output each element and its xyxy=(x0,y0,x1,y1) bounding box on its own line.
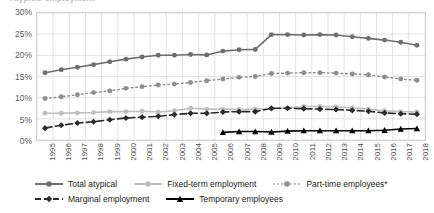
legend-entry[interactable]: Temporary employees xyxy=(165,194,283,204)
data-point xyxy=(188,52,193,57)
data-point xyxy=(269,32,274,37)
legend-marker-icon xyxy=(133,179,163,189)
x-tick-label: 2007 xyxy=(243,143,252,161)
y-tick-label: 20% xyxy=(0,50,32,60)
data-point xyxy=(123,57,128,62)
y-tick-label: 15% xyxy=(0,72,32,82)
x-tick-label: 2004 xyxy=(194,143,203,161)
data-point xyxy=(301,70,306,75)
data-point xyxy=(107,117,113,123)
y-tick-label: 5% xyxy=(0,115,32,125)
x-axis: 1995199619971998199920002001200220032004… xyxy=(36,143,426,175)
legend-entry[interactable]: Part-time employees* xyxy=(272,179,387,189)
data-point xyxy=(204,110,210,116)
data-point xyxy=(268,105,274,111)
x-tick-label: 2001 xyxy=(145,143,154,161)
data-point xyxy=(123,115,129,121)
data-point xyxy=(237,75,242,80)
legend-entry[interactable]: Fixed-term employment xyxy=(133,179,256,189)
x-tick-label: 1995 xyxy=(48,143,57,161)
x-tick-label: 2017 xyxy=(405,143,414,161)
x-tick-label: 2015 xyxy=(373,143,382,161)
data-point xyxy=(220,77,225,82)
data-point xyxy=(140,55,145,60)
plot-area xyxy=(36,12,426,141)
atypical-employment-chart: Atypical employment 0%5%10%15%20%25%30% … xyxy=(0,0,434,213)
data-point xyxy=(350,71,355,76)
y-tick-label: 10% xyxy=(0,93,32,103)
legend-entry[interactable]: Marginal employment xyxy=(34,194,149,204)
data-point xyxy=(204,78,209,83)
y-tick-label: 0% xyxy=(0,136,32,146)
data-point xyxy=(75,92,80,97)
x-tick-label: 2005 xyxy=(210,143,219,161)
data-point xyxy=(334,71,339,76)
data-point xyxy=(74,120,80,126)
legend-label: Temporary employees xyxy=(199,194,283,204)
y-tick-label: 25% xyxy=(0,29,32,39)
data-point xyxy=(188,80,193,85)
data-point xyxy=(317,70,322,75)
x-tick-label: 2018 xyxy=(421,143,430,161)
x-tick-label: 2008 xyxy=(259,143,268,161)
x-tick-label: 2002 xyxy=(161,143,170,161)
data-point xyxy=(285,32,290,37)
series-fixed-term-employment xyxy=(43,104,420,116)
data-point xyxy=(91,90,96,95)
data-point xyxy=(253,47,258,52)
data-point xyxy=(59,94,64,99)
data-point xyxy=(107,109,112,114)
data-point xyxy=(123,86,128,91)
data-point xyxy=(140,84,145,89)
legend-marker-icon xyxy=(34,179,64,189)
data-point xyxy=(382,38,387,43)
data-point xyxy=(414,43,419,48)
x-tick-label: 2011 xyxy=(308,143,317,160)
data-point xyxy=(43,111,48,116)
data-point xyxy=(171,112,177,118)
chart-title: Atypical employment xyxy=(10,0,94,3)
data-point xyxy=(140,109,145,114)
data-point xyxy=(123,109,128,114)
legend-row-1: Total atypicalFixed-term employmentPart-… xyxy=(0,176,434,191)
x-tick-label: 1998 xyxy=(96,143,105,161)
x-tick-label: 2016 xyxy=(389,143,398,161)
series-layer xyxy=(37,13,425,140)
x-tick-label: 2013 xyxy=(340,143,349,161)
data-point xyxy=(301,33,306,38)
x-tick-label: 1999 xyxy=(113,143,122,161)
legend-label: Total atypical xyxy=(68,179,117,189)
data-point xyxy=(58,122,64,128)
x-tick-label: 2000 xyxy=(129,143,138,161)
data-point xyxy=(107,59,112,64)
data-point xyxy=(366,36,371,41)
series-part-time-employees xyxy=(43,70,420,101)
data-point xyxy=(59,111,64,116)
legend-marker-icon xyxy=(34,194,64,204)
legend-entry[interactable]: Total atypical xyxy=(34,179,117,189)
data-point xyxy=(188,106,193,111)
data-point xyxy=(90,119,96,125)
data-point xyxy=(366,72,371,77)
data-point xyxy=(43,70,48,75)
chart-legend: Total atypicalFixed-term employmentPart-… xyxy=(0,176,434,206)
data-point xyxy=(156,53,161,58)
legend-marker-icon xyxy=(272,179,302,189)
legend-label: Fixed-term employment xyxy=(167,179,256,189)
data-point xyxy=(398,77,403,82)
data-point xyxy=(398,40,403,45)
data-point xyxy=(382,74,387,79)
legend-label: Part-time employees* xyxy=(306,179,387,189)
x-tick-label: 1997 xyxy=(80,143,89,161)
data-point xyxy=(220,49,225,54)
data-point xyxy=(317,32,322,37)
data-point xyxy=(334,33,339,38)
y-tick-label: 30% xyxy=(0,7,32,17)
x-tick-label: 2010 xyxy=(291,143,300,161)
data-point xyxy=(91,62,96,67)
data-point xyxy=(43,96,48,101)
series-temporary-employees xyxy=(220,125,420,135)
x-tick-label: 2006 xyxy=(226,143,235,161)
data-point xyxy=(253,74,258,79)
legend-marker-icon xyxy=(165,194,195,204)
